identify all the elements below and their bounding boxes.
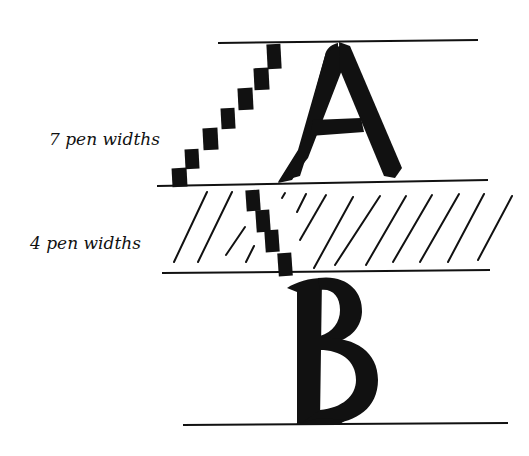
calligraphy-pen-width-diagram (0, 0, 529, 456)
base-line-a (162, 270, 490, 273)
ascender-pen-widths-label: 7 pen widths (49, 129, 160, 149)
letter-b (287, 277, 378, 424)
pen-width-stack-7 (172, 44, 282, 188)
letter-a (278, 42, 402, 183)
x-height-hatching (174, 192, 512, 268)
x-height-pen-widths-label: 4 pen widths (30, 233, 141, 253)
base-line-b (183, 423, 508, 425)
waist-line (157, 180, 488, 186)
cap-line (218, 40, 478, 43)
pen-width-stack-4 (245, 190, 293, 277)
